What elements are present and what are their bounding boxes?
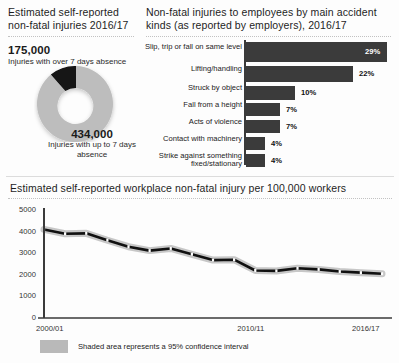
bar-3: [246, 103, 280, 116]
legend-swatch-confidence-band: [40, 340, 68, 353]
bar-value-0: 29%: [365, 47, 380, 56]
line-section: Estimated self-reported workplace non-fa…: [0, 182, 399, 363]
line-chart-legend: Shaded area represents a 95% confidence …: [40, 340, 249, 353]
bar-5: [246, 137, 265, 150]
data-point-6: [170, 247, 172, 250]
bar-panel-title: Non-fatal injuries to employees by main …: [146, 6, 392, 31]
bar-2: [246, 86, 295, 100]
bar-label-5: Contact with machinery: [114, 135, 242, 144]
bar-label-3: Fall from a height: [114, 101, 242, 110]
bar-1: [246, 66, 353, 82]
bar-label-2: Struck by object: [114, 84, 242, 93]
data-point-2: [85, 232, 87, 235]
data-point-14: [339, 270, 341, 273]
bar-value-3: 7%: [286, 105, 297, 114]
section-separator: [6, 176, 394, 177]
line-chart: 0100020003000400050002000/012010/112016/…: [0, 204, 399, 324]
data-point-5: [149, 249, 151, 252]
bar-value-1: 22%: [359, 69, 374, 78]
donut-panel-title: Estimated self-reported non-fatal injuri…: [8, 6, 136, 31]
data-point-15: [360, 271, 362, 274]
top-section: Estimated self-reported non-fatal injuri…: [0, 0, 399, 172]
donut-panel-divider: [8, 36, 134, 37]
data-point-11: [275, 269, 277, 272]
data-point-13: [318, 268, 320, 271]
data-point-16: [381, 272, 383, 275]
data-point-8: [212, 259, 214, 262]
bar-6: [246, 154, 265, 167]
y-tick-2: 2000: [6, 270, 36, 279]
bar-4: [246, 120, 280, 133]
bar-panel-divider: [146, 36, 391, 37]
data-point-7: [191, 253, 193, 256]
data-point-10: [254, 269, 256, 272]
y-tick-3: 3000: [6, 248, 36, 257]
donut-panel: Estimated self-reported non-fatal injuri…: [8, 6, 136, 67]
line-chart-svg: [0, 204, 399, 324]
x-tick-0: 2000/01: [36, 324, 63, 333]
bar-value-4: 7%: [286, 122, 297, 131]
bar-label-4: Acts of violence: [114, 118, 242, 127]
y-tick-1: 1000: [6, 291, 36, 300]
bar-label-0: Slip, trip or fall on same level: [114, 43, 242, 52]
data-point-1: [64, 232, 66, 235]
line-panel-title: Estimated self-reported workplace non-fa…: [10, 182, 346, 194]
x-tick-2: 2016/17: [352, 324, 379, 333]
bar-value-2: 10%: [301, 88, 316, 97]
line-panel-divider: [8, 198, 392, 199]
infographic-page: Estimated self-reported non-fatal injuri…: [0, 0, 399, 363]
bar-label-1: Lifting/handling: [114, 65, 242, 74]
bar-chart: Slip, trip or fall on same level29%Lifti…: [146, 40, 394, 168]
bar-value-5: 4%: [271, 139, 282, 148]
y-tick-4: 4000: [6, 227, 36, 236]
legend-label: Shaded area represents a 95% confidence …: [78, 342, 249, 351]
data-point-9: [233, 258, 235, 261]
data-point-4: [127, 245, 129, 248]
data-line: [44, 229, 382, 273]
x-tick-1: 2010/11: [237, 324, 264, 333]
data-point-3: [106, 239, 108, 242]
y-tick-0: 0: [6, 313, 36, 322]
y-tick-5: 5000: [6, 205, 36, 214]
data-point-12: [296, 267, 298, 270]
bar-value-6: 4%: [271, 156, 282, 165]
bar-panel: Non-fatal injuries to employees by main …: [146, 6, 392, 37]
bar-label-6: Strike against something fixed/stationar…: [114, 152, 242, 169]
